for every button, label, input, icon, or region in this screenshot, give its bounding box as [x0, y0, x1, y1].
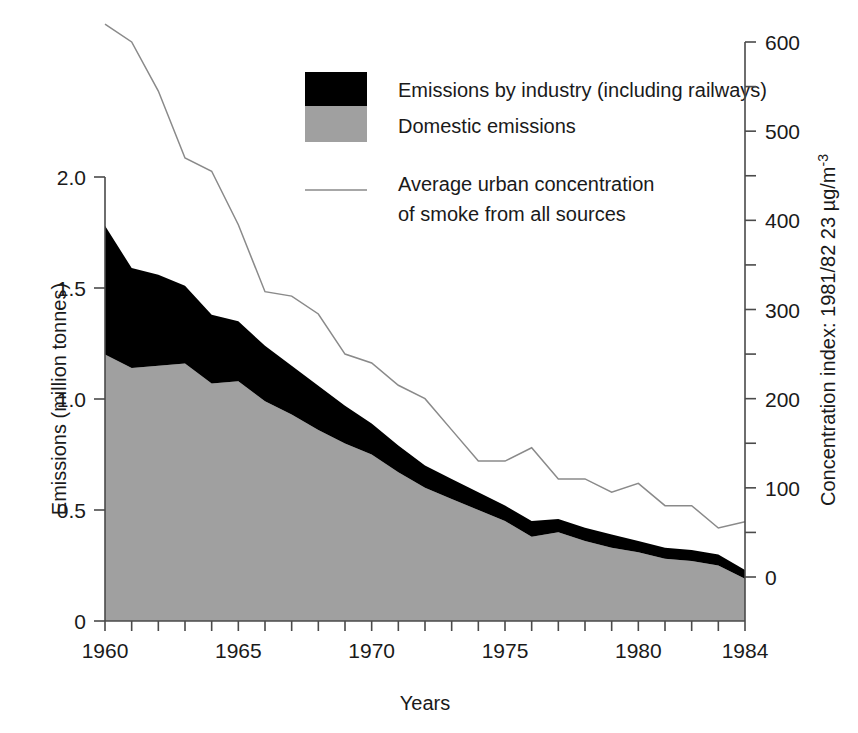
- right-axis-title: Concentration index: 1981/82 23 µg/m-3: [815, 154, 839, 506]
- legend-swatch-industry: [305, 72, 367, 106]
- bottom-axis-ticks: 196019651970197519801984: [82, 621, 769, 662]
- bottom-tick-label: 1965: [215, 639, 262, 662]
- legend-swatch-domestic: [305, 106, 367, 142]
- right-axis: 0100200300400500600 Concentration index:…: [745, 31, 839, 621]
- bottom-tick-label: 1984: [722, 639, 769, 662]
- left-tick-label: 2.0: [57, 166, 86, 189]
- right-tick-label: 100: [765, 477, 800, 500]
- right-tick-label: 600: [765, 31, 800, 54]
- right-tick-label: 500: [765, 120, 800, 143]
- right-tick-label: 0: [765, 566, 777, 589]
- legend-label-smoke-line-1: Average urban concentration: [398, 173, 654, 195]
- left-tick-label: 0: [74, 610, 86, 633]
- plot-area: [105, 24, 745, 621]
- bottom-tick-label: 1960: [82, 639, 129, 662]
- bottom-tick-label: 1975: [482, 639, 529, 662]
- right-tick-label: 400: [765, 209, 800, 232]
- bottom-tick-label: 1970: [348, 639, 395, 662]
- legend-label-industry: Emissions by industry (including railway…: [398, 79, 767, 101]
- chart-legend: Emissions by industry (including railway…: [305, 72, 767, 225]
- left-axis-title: Emissions (million tonnes): [48, 283, 70, 515]
- right-tick-label: 300: [765, 299, 800, 322]
- legend-label-smoke-line-2: of smoke from all sources: [398, 203, 626, 225]
- right-axis-ticks: 0100200300400500600: [745, 31, 800, 589]
- bottom-axis: 196019651970197519801984 Years: [82, 621, 769, 714]
- right-tick-label: 200: [765, 388, 800, 411]
- legend-label-domestic: Domestic emissions: [398, 115, 576, 137]
- bottom-axis-title: Years: [400, 692, 450, 714]
- bottom-tick-label: 1980: [615, 639, 662, 662]
- chart-figure: Emissions by industry (including railway…: [0, 0, 858, 733]
- left-axis: 00.51.01.52.0 Emissions (million tonnes): [48, 166, 105, 633]
- emissions-area-chart: Emissions by industry (including railway…: [0, 0, 858, 733]
